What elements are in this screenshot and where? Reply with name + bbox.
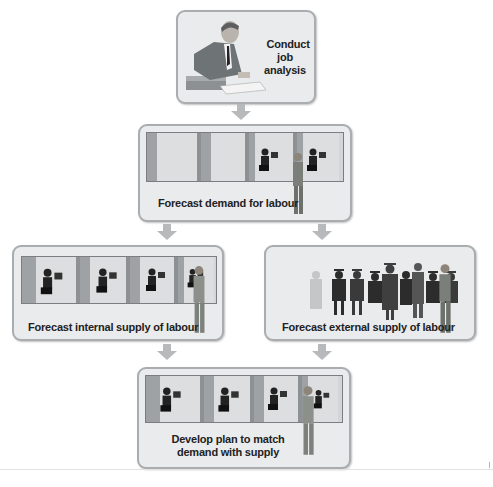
node-forecast-internal-supply: Forecast internal supply of labour bbox=[12, 245, 224, 341]
divider bbox=[0, 469, 493, 470]
node-label: Forecast demand for labour bbox=[158, 197, 298, 210]
arrow-down-icon bbox=[312, 224, 332, 240]
node-conduct-job-analysis: Conduct job analysis bbox=[176, 10, 316, 104]
edge-mark bbox=[489, 462, 490, 468]
worker-icon bbox=[257, 147, 279, 177]
label-line-1: Conduct bbox=[262, 38, 314, 51]
worker-icon bbox=[158, 386, 182, 418]
node-label: Forecast external supply of labour bbox=[282, 321, 455, 334]
node-label: Forecast internal supply of labour bbox=[28, 321, 198, 334]
worker-icon bbox=[305, 147, 327, 177]
arrow-down-icon bbox=[157, 224, 177, 240]
node-forecast-external-supply: Forecast external supply of labour bbox=[264, 245, 476, 341]
worker-icon bbox=[38, 267, 64, 301]
label-line-2: demand with supply bbox=[163, 446, 293, 459]
arrow-down-icon bbox=[157, 344, 177, 360]
node-label: Develop plan to match demand with supply bbox=[163, 433, 293, 459]
worker-icon bbox=[94, 267, 118, 299]
node-develop-plan: Develop plan to match demand with supply bbox=[137, 367, 351, 469]
manager-figure-icon bbox=[299, 383, 317, 459]
worker-icon bbox=[144, 267, 166, 297]
arrow-down-icon bbox=[231, 104, 251, 120]
arrow-down-icon bbox=[312, 344, 332, 360]
label-line-2: job analysis bbox=[256, 51, 314, 77]
node-forecast-demand: Forecast demand for labour bbox=[138, 124, 352, 222]
worker-icon bbox=[216, 386, 240, 418]
office-cubicles-illustration bbox=[21, 256, 217, 304]
office-cubicles-illustration bbox=[146, 132, 344, 182]
node-label: Conduct job analysis bbox=[262, 38, 314, 77]
label-line-1: Develop plan to match bbox=[163, 433, 293, 446]
worker-icon bbox=[266, 386, 288, 416]
